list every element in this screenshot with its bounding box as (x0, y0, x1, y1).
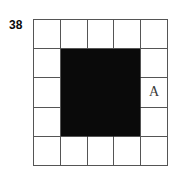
grid-cell-r1c3 (88, 20, 115, 49)
grid-cell-r4c4 (114, 108, 141, 137)
square-grid: A (33, 19, 168, 166)
grid-cell-r3c5: A (141, 78, 168, 107)
grid-cell-r4c5 (141, 108, 168, 137)
grid-cell-r3c2 (61, 78, 88, 107)
geometry-figure: 38 A (0, 0, 186, 175)
grid-cell-r4c1 (34, 108, 61, 137)
grid-cell-r3c1 (34, 78, 61, 107)
grid-cell-r3c4 (114, 78, 141, 107)
grid-cell-r2c3 (88, 49, 115, 78)
grid-cell-r3c3 (88, 78, 115, 107)
grid-cell-r2c5 (141, 49, 168, 78)
grid-cell-r2c1 (34, 49, 61, 78)
grid-cell-r1c4 (114, 20, 141, 49)
grid-cell-r5c4 (114, 137, 141, 166)
grid-cell-r5c1 (34, 137, 61, 166)
grid-cell-r4c2 (61, 108, 88, 137)
grid-cell-r5c5 (141, 137, 168, 166)
grid-cell-r5c3 (88, 137, 115, 166)
vertex-label-a: A (141, 78, 167, 106)
grid-cell-r4c3 (88, 108, 115, 137)
grid-cell-r5c2 (61, 137, 88, 166)
grid-cell-r1c1 (34, 20, 61, 49)
grid-cell-r2c2 (61, 49, 88, 78)
grid-cell-r1c2 (61, 20, 88, 49)
problem-number-label: 38 (9, 18, 22, 32)
grid-cell-r1c5 (141, 20, 168, 49)
grid-cell-r2c4 (114, 49, 141, 78)
